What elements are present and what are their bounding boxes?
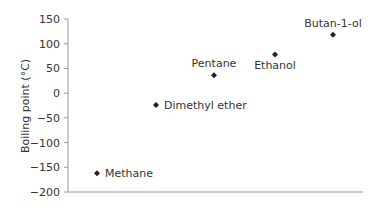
y-tick-label: −200 bbox=[30, 186, 60, 199]
y-tick-label: −100 bbox=[30, 137, 60, 150]
y-axis-label: Boiling point (°C) bbox=[19, 59, 32, 153]
data-point-label: Methane bbox=[105, 167, 153, 180]
data-point-label: Pentane bbox=[192, 57, 237, 70]
diamond-marker-icon bbox=[153, 102, 159, 108]
y-tick-label: 150 bbox=[39, 13, 60, 26]
data-point: Pentane bbox=[192, 57, 237, 78]
diamond-marker-icon bbox=[94, 170, 100, 176]
y-tick-label: −50 bbox=[37, 112, 60, 125]
diamond-marker-icon bbox=[272, 52, 278, 58]
data-point: Butan-1-ol bbox=[304, 17, 361, 38]
diamond-marker-icon bbox=[211, 72, 217, 78]
data-point-label: Butan-1-ol bbox=[304, 17, 361, 30]
data-point-label: Ethanol bbox=[254, 59, 296, 72]
y-axis-ticks: 150100500−50−100−150−200 bbox=[30, 13, 68, 199]
data-point: Ethanol bbox=[254, 52, 296, 72]
y-tick-label: 50 bbox=[46, 62, 60, 75]
data-point: Dimethyl ether bbox=[153, 99, 247, 112]
data-points: MethaneDimethyl etherPentaneEthanolButan… bbox=[94, 17, 362, 180]
diamond-marker-icon bbox=[330, 32, 336, 38]
y-tick-label: 100 bbox=[39, 38, 60, 51]
y-tick-label: 0 bbox=[53, 87, 60, 100]
data-point-label: Dimethyl ether bbox=[164, 99, 247, 112]
y-tick-label: −150 bbox=[30, 161, 60, 174]
chart-canvas: 150100500−50−100−150−200 MethaneDimethyl… bbox=[0, 0, 383, 210]
boiling-point-chart: 150100500−50−100−150−200 MethaneDimethyl… bbox=[0, 0, 383, 210]
data-point: Methane bbox=[94, 167, 153, 180]
